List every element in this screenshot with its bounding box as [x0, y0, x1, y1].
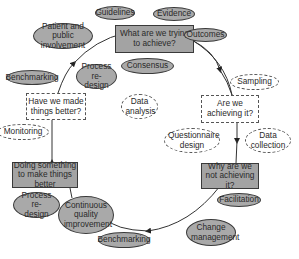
tool-patient-public-involvement[interactable]: Patient and public involvement [33, 23, 93, 49]
tool-label: Sampling [237, 77, 272, 87]
tool-label: Outcomes [187, 30, 225, 40]
tool-label: Questionnaire design [168, 131, 216, 150]
stage-have-we-made-things-better[interactable]: Have we made things better? [26, 93, 86, 120]
tool-data-collection[interactable]: Data collection [245, 128, 291, 153]
tool-label: Process re-design [20, 191, 54, 220]
stage-label: Have we made things better? [27, 97, 85, 116]
tool-label: Consensus [127, 61, 169, 71]
stage-what-are-we-trying-to-achieve[interactable]: What are we trying to achieve? [115, 25, 194, 53]
tool-label: Data analysis [126, 97, 154, 116]
stage-are-we-achieving-it[interactable]: Are we achieving it? [201, 95, 259, 123]
stage-label: Are we achieving it? [202, 99, 258, 118]
tool-benchmarking-left[interactable]: Benchmarking [6, 70, 58, 85]
tool-sampling[interactable]: Sampling [230, 74, 279, 90]
stage-why-are-we-not-achieving-it[interactable]: Why are we not achieving it? [201, 163, 259, 189]
tool-guidelines[interactable]: Guidelines [95, 6, 135, 20]
tool-outcomes[interactable]: Outcomes [184, 28, 227, 42]
tool-label: Benchmarking [5, 73, 58, 83]
stage-doing-something-to-make-things-better[interactable]: Doing something to make things better [12, 162, 78, 188]
stage-label: Why are we not achieving it? [202, 162, 258, 191]
tool-label: Guidelines [95, 8, 134, 18]
tool-evidence[interactable]: Evidence [153, 7, 195, 21]
tool-label: Monitoring [4, 127, 43, 137]
tool-continuous-quality-improvement[interactable]: Continuous quality improvement [58, 196, 114, 234]
tool-facilitation[interactable]: Facilitation [217, 193, 261, 207]
tool-questionnaire-design[interactable]: Questionnaire design [164, 128, 220, 153]
tool-label: Process re-design [80, 62, 114, 91]
tool-label: Data collection [250, 131, 286, 150]
tool-data-analysis[interactable]: Data analysis [121, 94, 158, 119]
tool-process-redesign-top[interactable]: Process re-design [76, 64, 117, 89]
tool-label: Patient and public involvement [39, 22, 87, 51]
tool-label: Facilitation [219, 195, 259, 205]
tool-label: Continuous quality improvement [64, 201, 108, 230]
tool-label: Evidence [157, 9, 191, 19]
stage-label: Doing something to make things better [13, 161, 77, 190]
tool-process-redesign-bottom[interactable]: Process re-design [13, 192, 60, 218]
tool-change-management[interactable]: Change management [186, 219, 236, 246]
stage-label: What are we trying to achieve? [116, 29, 193, 48]
tool-label: Benchmarking [97, 235, 150, 245]
tool-benchmarking-bottom[interactable]: Benchmarking [98, 232, 150, 248]
tool-label: Change management [191, 223, 231, 242]
tool-consensus[interactable]: Consensus [121, 58, 174, 74]
